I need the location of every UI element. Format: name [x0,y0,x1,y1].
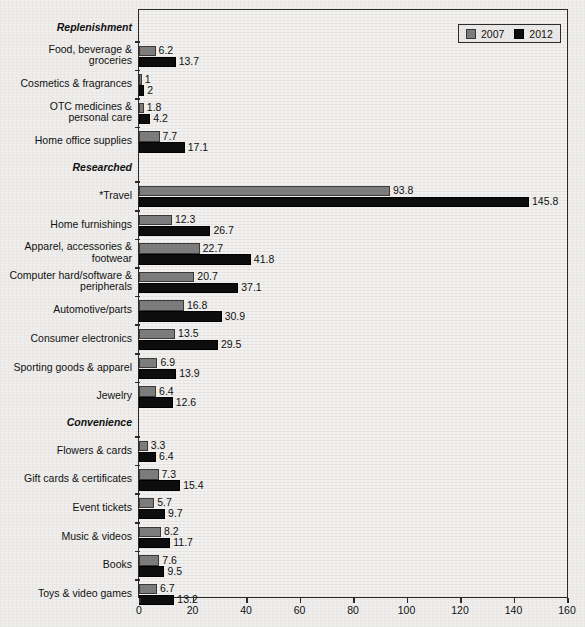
bar-value-2012: 6.4 [159,451,174,462]
bar-value-2012: 37.1 [241,282,261,293]
category-label: Food, beverage & groceries [4,44,132,67]
category-label: Home office supplies [4,135,132,147]
bar-value-2012: 29.5 [221,339,241,350]
bar-2007 [139,46,156,57]
x-axis-tick [567,598,569,603]
bar-2012 [139,114,150,125]
legend-swatch-2012-icon [514,29,524,39]
plot-area: 6.213.7121.84.27.717.193.8145.812.326.72… [138,9,568,598]
category-label: Books [4,559,132,571]
bar-2012 [139,57,176,68]
bar-value-2012: 12.6 [176,397,196,408]
bar-2012 [139,340,218,351]
bar-value-2007: 13.5 [178,328,198,339]
category-label: Automotive/parts [4,304,132,316]
y-axis-tick [135,353,140,355]
bar-value-2007: 6.4 [159,386,174,397]
bar-2007 [139,103,144,114]
bar-value-2007: 6.7 [160,583,175,594]
x-axis-tick-label: 80 [347,604,359,616]
bar-2007 [139,441,148,452]
bar-2012 [139,538,170,549]
x-axis-tick [353,598,355,603]
bar-2007 [139,74,142,85]
category-label: Sporting goods & apparel [4,362,132,374]
x-axis-tick [300,598,302,603]
bar-2007 [139,300,184,311]
category-label: Event tickets [4,502,132,514]
category-label: Computer hard/software & peripherals [4,270,132,293]
category-label: Cosmetics & fragrances [4,78,132,90]
x-axis-tick-label: 100 [398,604,416,616]
y-axis-tick [135,465,140,467]
bar-2007 [139,358,157,369]
bar-value-2007: 7.3 [162,469,177,480]
category-label: Jewelry [4,390,132,402]
bar-2007 [139,329,175,340]
bar-2012 [139,397,173,408]
bar-value-2012: 2 [147,85,153,96]
bar-2012 [139,85,144,96]
legend-swatch-2007-icon [466,29,476,39]
group-header-researched: Researched [4,161,132,173]
y-axis-tick [135,98,140,100]
bar-2012 [139,480,180,491]
bar-2007 [139,131,160,142]
x-axis-tick-label: 20 [187,604,199,616]
bar-value-2012: 9.7 [168,508,183,519]
bar-value-2012: 15.4 [183,480,203,491]
group-header-convenience: Convenience [4,416,132,428]
bar-2007 [139,272,194,283]
bar-2012 [139,226,210,237]
bar-value-2012: 13.9 [179,368,199,379]
y-axis-tick [135,579,140,581]
bar-value-2012: 9.5 [167,566,182,577]
grouped-bar-chart: 6.213.7121.84.27.717.193.8145.812.326.72… [0,0,585,627]
bar-2012 [139,142,185,153]
legend: 2007 2012 [458,24,561,43]
bar-2007 [139,186,390,197]
bar-value-2012: 145.8 [532,196,558,207]
bar-value-2012: 41.8 [254,254,274,265]
bar-2007 [139,584,157,595]
category-label: Home furnishings [4,219,132,231]
bar-2007 [139,555,159,566]
bar-2007 [139,527,161,538]
legend-item-2012: 2012 [514,28,552,40]
x-axis-tick-label: 160 [558,604,576,616]
bar-2007 [139,386,156,397]
y-axis-tick [135,267,140,269]
y-axis-tick [135,324,140,326]
bar-value-2007: 6.9 [160,357,175,368]
bar-value-2007: 16.8 [187,300,207,311]
x-axis-tick-labels: 020406080100120140160 [138,604,568,620]
category-label: Apparel, accessories & footwear [4,241,132,264]
y-axis-tick [135,493,140,495]
x-axis-tick-label: 120 [451,604,469,616]
bar-value-2007: 93.8 [393,185,413,196]
x-axis-tick-label: 40 [240,604,252,616]
bar-2012 [139,311,222,322]
bar-2007 [139,243,200,254]
category-label: Gift cards & certificates [4,473,132,485]
y-axis-tick [135,41,140,43]
bar-value-2012: 30.9 [225,311,245,322]
x-axis-tick [193,598,195,603]
x-axis-tick-label: 0 [136,604,142,616]
y-axis-tick [135,239,140,241]
bar-2012 [139,369,176,380]
x-axis-tick-label: 60 [294,604,306,616]
x-axis-tick [460,598,462,603]
category-label: *Travel [4,190,132,202]
category-label: OTC medicines & personal care [4,101,132,124]
y-axis-tick [135,296,140,298]
bar-value-2007: 12.3 [175,214,195,225]
bar-value-2007: 20.7 [197,271,217,282]
y-axis-tick [135,436,140,438]
bar-value-2012: 17.1 [188,142,208,153]
x-axis-tick-label: 140 [505,604,523,616]
bar-value-2012: 4.2 [153,113,168,124]
bar-2012 [139,254,251,265]
y-axis-tick [135,127,140,129]
bar-2012 [139,452,156,463]
